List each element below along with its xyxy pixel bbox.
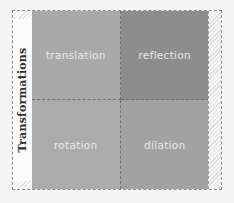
cell-dilation: dilation (121, 100, 210, 189)
row-label: Transformations (16, 48, 29, 153)
transformations-grid: translation reflection rotation dilation (32, 11, 209, 189)
hatch-decoration (13, 181, 32, 189)
hatched-margin (208, 11, 221, 189)
diagram-frame: Transformations translation reflection r… (12, 10, 222, 190)
cell-reflection: reflection (121, 11, 210, 100)
hatch-decoration (13, 11, 32, 19)
cell-rotation: rotation (32, 100, 121, 189)
row-label-column: Transformations (13, 11, 32, 189)
cell-translation: translation (32, 11, 121, 100)
